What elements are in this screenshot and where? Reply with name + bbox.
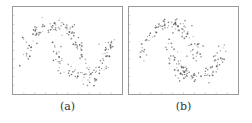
data-point <box>205 71 207 73</box>
data-point <box>199 53 201 55</box>
data-point <box>110 42 112 44</box>
data-point <box>223 44 225 46</box>
data-point <box>164 23 166 25</box>
data-point <box>205 73 206 74</box>
data-point <box>210 67 212 69</box>
data-point <box>168 25 169 26</box>
data-point <box>81 56 83 58</box>
data-point <box>110 46 112 48</box>
scatter-plot-a <box>12 6 123 95</box>
data-point <box>54 22 56 24</box>
data-point <box>200 56 201 57</box>
data-point <box>104 49 106 51</box>
data-point <box>102 58 103 59</box>
data-point <box>178 30 179 31</box>
data-point <box>105 47 106 48</box>
data-point <box>71 66 72 67</box>
data-point <box>168 43 169 44</box>
data-point <box>58 27 60 29</box>
data-point <box>198 72 199 73</box>
data-point <box>105 55 107 57</box>
data-point <box>83 84 84 85</box>
data-point <box>159 25 161 27</box>
data-point <box>95 72 96 73</box>
data-point <box>48 31 50 33</box>
data-point <box>207 69 208 70</box>
data-point <box>78 37 79 38</box>
data-point <box>108 49 109 50</box>
data-point <box>184 20 186 22</box>
data-point <box>196 52 197 53</box>
data-point <box>108 42 109 43</box>
data-point <box>172 55 174 57</box>
scatter-plot-b <box>128 6 239 95</box>
data-point <box>218 46 220 48</box>
data-point <box>85 73 87 75</box>
data-point <box>34 26 36 28</box>
data-point <box>59 18 60 19</box>
data-point <box>19 65 21 67</box>
data-point <box>87 79 88 80</box>
data-point <box>186 73 187 74</box>
data-point <box>39 33 40 34</box>
data-point <box>142 47 143 48</box>
data-point <box>191 25 192 26</box>
data-point <box>89 71 90 72</box>
data-point <box>175 28 176 29</box>
data-point <box>105 67 107 69</box>
data-point <box>73 35 75 37</box>
data-point <box>171 22 173 24</box>
data-point <box>165 47 166 48</box>
data-point <box>66 28 67 29</box>
data-point <box>103 53 104 54</box>
data-point <box>102 62 104 64</box>
data-point <box>68 34 69 35</box>
data-point <box>212 66 213 67</box>
data-point <box>98 66 100 68</box>
data-point <box>63 24 65 26</box>
data-point <box>56 53 58 55</box>
data-point <box>217 58 219 60</box>
data-point <box>59 63 60 64</box>
data-point <box>68 70 70 72</box>
data-point <box>173 23 175 25</box>
data-point <box>51 26 52 27</box>
data-point <box>196 53 197 54</box>
data-point <box>178 77 179 78</box>
data-point <box>80 48 81 49</box>
data-point <box>89 67 90 68</box>
data-point <box>164 27 166 29</box>
data-point <box>173 48 175 50</box>
data-point <box>55 27 56 28</box>
data-point <box>85 59 87 61</box>
data-point <box>75 41 76 42</box>
data-point <box>108 67 109 68</box>
data-point <box>53 51 54 52</box>
data-point <box>178 63 180 65</box>
data-point <box>217 68 218 69</box>
data-point <box>42 17 43 18</box>
data-point <box>221 60 222 61</box>
data-point <box>187 70 188 71</box>
data-point <box>149 40 150 41</box>
data-point <box>109 56 110 57</box>
data-point <box>168 22 170 24</box>
data-point <box>110 48 111 49</box>
data-point <box>182 74 184 76</box>
data-point <box>77 75 79 77</box>
data-point <box>192 54 193 55</box>
data-point <box>36 27 37 28</box>
data-point <box>74 44 76 46</box>
data-point <box>74 24 76 26</box>
data-point <box>152 36 153 37</box>
data-point <box>55 29 56 30</box>
data-point <box>72 71 74 73</box>
data-point <box>217 64 218 65</box>
data-point <box>216 52 218 54</box>
data-point <box>220 57 222 59</box>
data-point <box>77 72 78 73</box>
data-point <box>82 72 83 73</box>
data-point <box>202 45 204 47</box>
data-point <box>89 82 91 84</box>
data-point <box>76 77 77 78</box>
